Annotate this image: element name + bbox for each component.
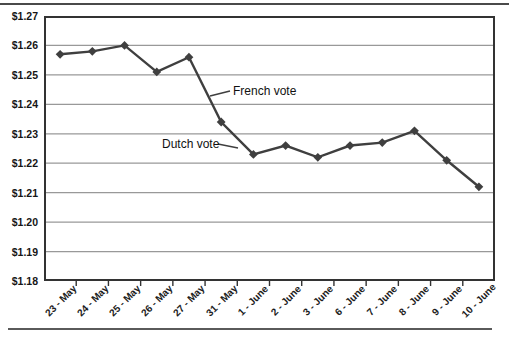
y-axis-label: $1.21	[0, 186, 38, 200]
data-point-marker	[378, 138, 387, 147]
plot-frame	[45, 17, 494, 280]
data-point-marker	[88, 47, 97, 56]
dutch-vote-leader-line	[218, 144, 238, 148]
y-axis-label: $1.19	[0, 245, 38, 259]
y-axis-label: $1.26	[0, 38, 38, 52]
data-point-marker	[185, 53, 194, 62]
top-rule	[0, 3, 509, 5]
series-line	[60, 45, 479, 186]
y-axis-label: $1.20	[0, 215, 38, 229]
plot-area	[44, 16, 495, 298]
data-point-marker	[313, 153, 322, 162]
y-axis-label: $1.22	[0, 156, 38, 170]
annotation-french-vote: French vote	[233, 84, 296, 98]
french-vote-leader-line	[210, 91, 230, 96]
data-point-marker	[56, 50, 65, 59]
annotation-dutch-vote: Dutch vote	[162, 137, 219, 151]
y-axis-label: $1.24	[0, 97, 38, 111]
y-axis-label: $1.27	[0, 9, 38, 23]
y-axis-label: $1.25	[0, 68, 38, 82]
data-point-marker	[346, 141, 355, 150]
bottom-rule	[8, 328, 492, 330]
y-axis-label: $1.18	[0, 274, 38, 288]
exchange-rate-chart: $1.18$1.19$1.20$1.21$1.22$1.23$1.24$1.25…	[0, 0, 509, 340]
data-point-marker	[281, 141, 290, 150]
y-axis-label: $1.23	[0, 127, 38, 141]
